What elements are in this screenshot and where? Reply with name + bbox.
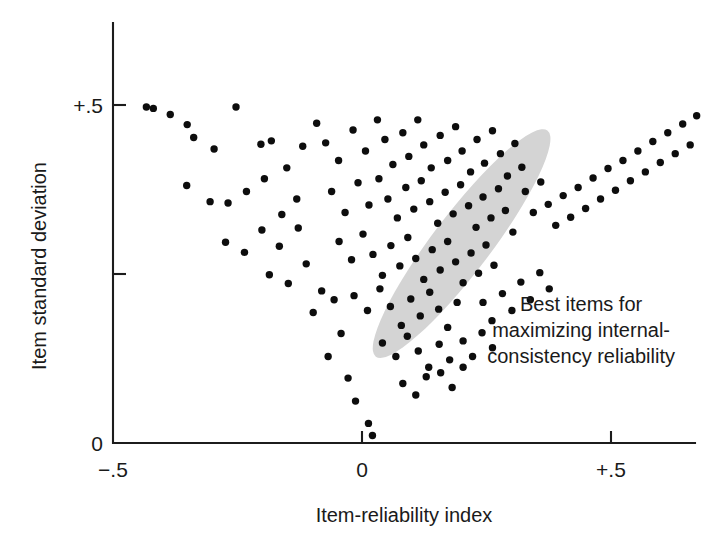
data-point <box>546 285 553 292</box>
data-point <box>634 147 641 154</box>
data-point <box>446 356 453 363</box>
data-point <box>278 211 285 218</box>
data-point <box>384 195 391 202</box>
data-point <box>410 205 417 212</box>
data-point <box>303 260 310 267</box>
data-point <box>672 150 679 157</box>
data-point <box>459 279 466 286</box>
data-point <box>266 271 273 278</box>
chart-figure: 0+.5−.50+.5 Best items formaximizing int… <box>0 0 723 552</box>
data-point <box>379 272 386 279</box>
y-tick-label: +.5 <box>73 94 103 117</box>
annotation-line: consistency reliability <box>487 345 675 367</box>
data-point <box>467 168 474 175</box>
data-point <box>458 147 465 154</box>
y-axis-title: Item standard deviation <box>28 162 50 370</box>
data-point <box>324 353 331 360</box>
data-point <box>499 290 506 297</box>
data-point <box>387 303 394 310</box>
data-point <box>511 140 518 147</box>
data-point <box>495 185 502 192</box>
data-point <box>589 174 596 181</box>
data-point <box>335 157 342 164</box>
data-point <box>536 269 543 276</box>
data-point <box>473 136 480 143</box>
data-point <box>423 373 430 380</box>
data-point <box>429 246 436 253</box>
data-point <box>657 159 664 166</box>
data-point <box>649 138 656 145</box>
data-point <box>293 195 300 202</box>
data-point <box>285 280 292 287</box>
data-point <box>444 238 451 245</box>
data-point <box>619 157 626 164</box>
data-point <box>183 182 190 189</box>
data-point <box>444 157 451 164</box>
data-point <box>567 214 574 221</box>
data-point <box>459 364 466 371</box>
data-point <box>299 143 306 150</box>
data-point <box>453 299 460 306</box>
data-point <box>362 147 369 154</box>
data-point <box>392 353 399 360</box>
data-point <box>365 201 372 208</box>
data-point <box>612 186 619 193</box>
data-point <box>449 210 456 217</box>
data-point <box>414 116 421 123</box>
data-point <box>359 230 366 237</box>
data-point <box>522 188 529 195</box>
data-point <box>418 177 425 184</box>
data-point <box>693 112 700 119</box>
data-point <box>349 126 356 133</box>
data-point <box>375 175 382 182</box>
data-point <box>376 285 383 292</box>
x-tick-label: 0 <box>356 458 368 481</box>
data-point <box>518 163 525 170</box>
data-point <box>167 111 174 118</box>
scatter-plot: 0+.5−.50+.5 Best items formaximizing int… <box>0 0 723 552</box>
data-point <box>435 305 442 312</box>
data-point <box>341 209 348 216</box>
data-point <box>318 287 325 294</box>
data-point <box>420 276 427 283</box>
data-point <box>428 164 435 171</box>
data-point <box>552 222 559 229</box>
data-point <box>509 228 516 235</box>
x-axis-title: Item-reliability index <box>316 504 493 526</box>
data-point <box>404 332 411 339</box>
data-point <box>399 129 406 136</box>
data-point <box>436 132 443 139</box>
data-point <box>508 307 515 314</box>
data-point <box>426 198 433 205</box>
data-point <box>222 239 229 246</box>
data-point <box>517 278 524 285</box>
data-point <box>436 266 443 273</box>
annotation-line: Best items for <box>520 293 643 315</box>
data-point <box>328 188 335 195</box>
data-point <box>417 312 424 319</box>
data-point <box>497 150 504 157</box>
data-point <box>379 339 386 346</box>
data-point <box>344 374 351 381</box>
data-point <box>502 207 509 214</box>
data-point <box>441 189 448 196</box>
data-point <box>322 139 329 146</box>
data-point <box>426 289 433 296</box>
data-point <box>258 226 265 233</box>
data-point <box>369 432 376 439</box>
data-point <box>283 164 290 171</box>
data-point <box>437 369 444 376</box>
data-point <box>597 195 604 202</box>
data-point <box>482 241 489 248</box>
data-point <box>313 120 320 127</box>
data-point <box>504 172 511 179</box>
data-point <box>190 134 197 141</box>
x-tick-label: −.5 <box>98 458 128 481</box>
data-point <box>394 214 401 221</box>
data-point <box>405 153 412 160</box>
data-point <box>243 188 250 195</box>
data-point <box>448 384 455 391</box>
data-point <box>479 193 486 200</box>
data-point <box>475 270 482 277</box>
data-point <box>381 136 388 143</box>
